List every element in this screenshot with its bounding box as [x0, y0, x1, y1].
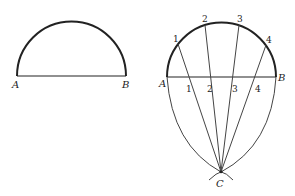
ray-4: [221, 45, 266, 172]
diameter-point-1: 1: [186, 84, 192, 94]
left-arc: [17, 21, 126, 76]
diameter-point-3: 3: [232, 84, 238, 94]
ray-1: [178, 44, 221, 172]
diameter-point-4: 4: [255, 84, 261, 94]
right-label-b: B: [277, 72, 285, 83]
right-top-arc: [167, 22, 276, 77]
left-label-b: B: [121, 79, 129, 90]
ray-3: [221, 25, 239, 172]
diameter-point-2: 2: [207, 84, 213, 94]
right-lower-arc: [221, 77, 276, 172]
right-construction-figure: A B C 1 2 3 4 1 2 3 4: [158, 14, 285, 189]
arc-point-2: 2: [202, 14, 208, 24]
arc-point-4: 4: [266, 35, 272, 45]
left-label-a: A: [11, 79, 19, 90]
right-label-a: A: [158, 78, 166, 89]
arc-point-1: 1: [173, 34, 179, 44]
ray-2: [205, 25, 221, 172]
arc-point-3: 3: [237, 14, 243, 24]
right-label-c: C: [216, 178, 224, 189]
left-semicircle-figure: A B: [11, 21, 129, 90]
diagram-canvas: A B A B C 1 2 3 4 1 2 3 4: [0, 0, 295, 196]
point-c: [220, 171, 223, 174]
